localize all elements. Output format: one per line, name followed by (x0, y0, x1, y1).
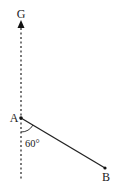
label-g: G (17, 7, 26, 21)
label-a: A (10, 111, 19, 125)
arrowhead-icon (18, 20, 25, 28)
point-a (19, 116, 23, 120)
angle-arc (21, 125, 33, 132)
label-b: B (102, 170, 110, 183)
bearing-diagram: G A B 60° (0, 0, 122, 183)
angle-label: 60° (25, 138, 40, 149)
